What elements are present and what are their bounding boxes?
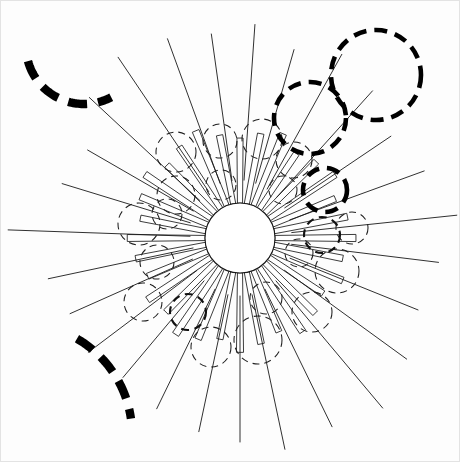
thin-dashed-circle [191,327,231,367]
thin-dashed-circle [124,283,162,321]
radial-ray-line [118,57,209,191]
radial-ray-line [8,230,190,236]
central-hub-disc [205,203,275,273]
radial-ray-line [285,270,407,359]
bottom-left-arc [77,339,131,419]
heavy-dashed-arc-layer [28,61,131,419]
top-left-arc [28,61,111,104]
radial-ray-line [88,150,194,211]
thin-dashed-circle [156,132,196,172]
bold-dashed-circle [274,82,346,154]
radial-ray-line [265,289,332,427]
petal-strip [275,234,356,241]
figure-canvas [0,0,460,462]
radial-diagram-svg [0,0,460,462]
petal-strip [237,138,243,203]
radial-ray-line [167,39,220,184]
radial-ray-line [157,289,215,409]
hub-layer [205,203,275,273]
